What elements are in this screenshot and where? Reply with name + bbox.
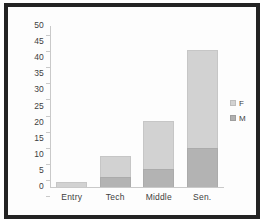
x-axis-label: Sen. <box>171 192 233 202</box>
y-axis-tick-label: 0 <box>8 181 50 191</box>
y-axis-tick-label: 5 <box>8 165 50 175</box>
y-axis-tick-label: 40 <box>8 52 50 62</box>
y-axis-tick: 25 <box>8 101 50 113</box>
bar-segment-male[interactable] <box>187 148 218 187</box>
y-axis-tick: 40 <box>8 52 50 64</box>
y-axis-tick-mark <box>46 148 50 149</box>
y-axis-tick-label: 25 <box>8 101 50 111</box>
y-axis-tick-label: 30 <box>8 84 50 94</box>
y-axis-tick-mark <box>46 83 50 84</box>
bar-sen[interactable] <box>187 26 218 187</box>
chart-figure: 05101520253035404550 EntryTechMiddleSen.… <box>0 0 264 224</box>
bar-tech[interactable] <box>100 26 131 187</box>
chart-legend: FM <box>230 97 246 127</box>
bar-segment-male[interactable] <box>143 169 174 187</box>
stacked-bar-chart: 05101520253035404550 EntryTechMiddleSen.… <box>8 7 256 215</box>
bar-segment-female[interactable] <box>187 50 218 148</box>
x-axis-line <box>50 187 224 188</box>
y-axis-tick-label: 10 <box>8 149 50 159</box>
y-axis-tick: 35 <box>8 68 50 80</box>
y-axis-tick-label: 20 <box>8 117 50 127</box>
y-axis-tick-label: 45 <box>8 36 50 46</box>
bar-segment-female[interactable] <box>143 121 174 169</box>
y-axis-tick-mark <box>46 116 50 117</box>
y-axis-tick: 45 <box>8 36 50 48</box>
y-axis-tick-mark <box>46 164 50 165</box>
y-axis-tick-label: 15 <box>8 133 50 143</box>
legend-swatch-icon <box>230 100 236 106</box>
bar-segment-female[interactable] <box>100 156 131 177</box>
y-axis-line <box>50 26 51 188</box>
y-axis-tick-mark <box>46 67 50 68</box>
legend-item-m[interactable]: M <box>230 112 246 124</box>
y-axis-tick-mark <box>46 132 50 133</box>
y-axis-tick-label: 35 <box>8 68 50 78</box>
y-axis-tick-mark <box>46 180 50 181</box>
bar-segment-male[interactable] <box>100 177 131 187</box>
y-axis-tick: 20 <box>8 117 50 129</box>
bar-middle[interactable] <box>143 26 174 187</box>
legend-label: M <box>239 114 246 123</box>
y-axis-tick-mark <box>46 51 50 52</box>
y-axis-tick-mark <box>46 35 50 36</box>
y-axis-tick-mark <box>46 99 50 100</box>
y-axis-tick-label: 50 <box>8 20 50 30</box>
legend-item-f[interactable]: F <box>230 97 246 109</box>
y-axis-tick: 50 <box>8 20 50 32</box>
bar-entry[interactable] <box>56 26 87 187</box>
y-axis-tick: 10 <box>8 149 50 161</box>
y-axis-tick: 30 <box>8 84 50 96</box>
bar-segment-female[interactable] <box>56 182 87 187</box>
y-axis-tick: 15 <box>8 133 50 145</box>
legend-label: F <box>239 99 244 108</box>
legend-swatch-icon <box>230 115 236 121</box>
y-axis-tick: 5 <box>8 165 50 177</box>
